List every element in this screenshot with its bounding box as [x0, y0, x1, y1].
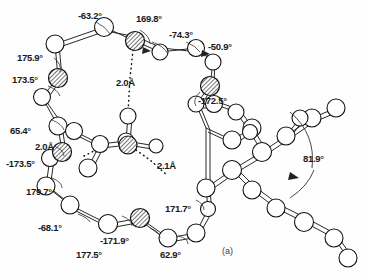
torsion-label-t1: -63.2°: [78, 10, 102, 21]
torsion-label-t8: 65.4°: [10, 125, 31, 136]
figure-caption: (a): [222, 246, 233, 256]
hbond-label-h2: 2.0Å: [35, 141, 54, 152]
torsion-label-t15: 171.7°: [165, 203, 191, 214]
torsion-label-t11: -68.1°: [38, 222, 62, 233]
torsion-label-t16: 81.9°: [303, 153, 324, 164]
heteroatom-n4: [53, 143, 72, 162]
torsion-label-t10: 179.7°: [26, 186, 52, 197]
torsion-label-t13: 177.5°: [76, 249, 102, 260]
hbond-label-h3: 2.1Å: [157, 160, 176, 171]
torsion-label-t3: -74.3°: [169, 29, 193, 40]
torsion-label-t6: 173.5°: [12, 74, 38, 85]
molecular-structure-figure: -63.2° 169.8° -74.3° -50.9° 175.9° 173.5…: [0, 0, 367, 274]
heteroatom-n6: [131, 209, 150, 228]
torsion-label-t12: -171.9°: [100, 235, 129, 246]
torsion-label-t5: 175.9°: [17, 52, 43, 63]
heteroatom-n1: [126, 32, 145, 51]
torsion-label-t9: -173.5°: [6, 158, 35, 169]
atom-open-set: [34, 18, 358, 268]
heteroatom-n3: [201, 77, 220, 96]
hbond-label-h1: 2.0Å: [116, 77, 135, 88]
heteroatom-n5: [119, 136, 137, 154]
torsion-label-t2: 169.8°: [136, 13, 162, 24]
torsion-label-t7: -172.5°: [198, 95, 227, 106]
heteroatom-n2: [49, 69, 68, 88]
torsion-label-t14: 62.9°: [160, 249, 181, 260]
torsion-label-t4: -50.9°: [208, 41, 232, 52]
